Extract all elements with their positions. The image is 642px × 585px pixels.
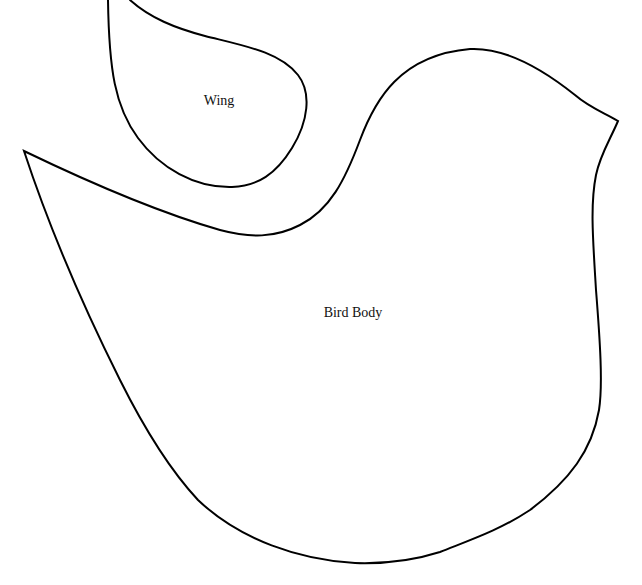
bird-body-outline — [24, 49, 618, 563]
pattern-canvas — [0, 0, 642, 585]
wing-label: Wing — [204, 93, 235, 109]
bird-body-label: Bird Body — [324, 305, 383, 321]
